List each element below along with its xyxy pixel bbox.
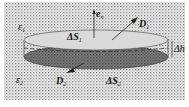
dh-label: Δh [173,43,185,54]
diagram-canvas: ε1 ε2 en D1 D2 ΔS1 ΔS2 Δh [0,0,189,107]
top-face-dS1 [24,30,168,50]
